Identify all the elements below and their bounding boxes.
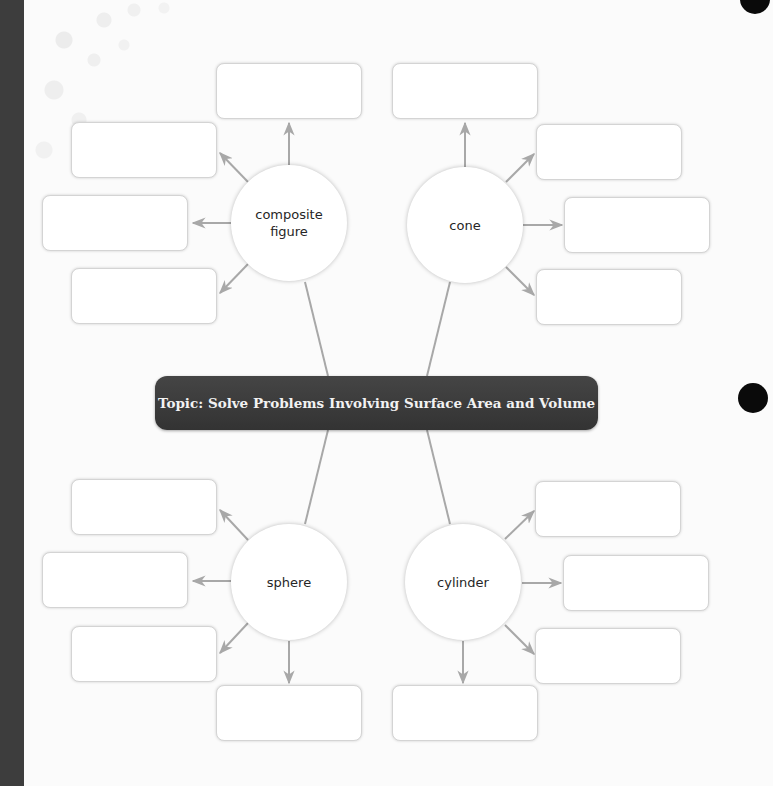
composite-answer-box-2[interactable]: [71, 122, 217, 178]
cylinder-answer-box-4[interactable]: [392, 685, 538, 741]
cone-answer-box-3[interactable]: [564, 197, 710, 253]
node-sphere: sphere: [231, 524, 347, 640]
cylinder-answer-box-1[interactable]: [535, 481, 681, 537]
sphere-answer-box-1[interactable]: [71, 479, 217, 535]
node-label: cone: [420, 217, 510, 234]
node-label: composite figure: [244, 206, 334, 240]
cone-answer-box-1[interactable]: [392, 63, 538, 119]
topic-banner: Topic: Solve Problems Involving Surface …: [155, 376, 598, 430]
composite-answer-box-4[interactable]: [71, 268, 217, 324]
cylinder-answer-box-2[interactable]: [563, 555, 709, 611]
node-cylinder: cylinder: [405, 524, 521, 640]
node-label: sphere: [244, 574, 334, 591]
cylinder-answer-box-3[interactable]: [535, 628, 681, 684]
composite-answer-box-3[interactable]: [42, 195, 188, 251]
node-composite-figure: composite figure: [231, 165, 347, 281]
cone-answer-box-2[interactable]: [536, 124, 682, 180]
sphere-answer-box-4[interactable]: [216, 685, 362, 741]
topic-title: Topic: Solve Problems Involving Surface …: [158, 395, 595, 411]
sphere-answer-box-2[interactable]: [42, 552, 188, 608]
cone-answer-box-4[interactable]: [536, 269, 682, 325]
node-cone: cone: [407, 167, 523, 283]
sphere-answer-box-3[interactable]: [71, 626, 217, 682]
composite-answer-box-1[interactable]: [216, 63, 362, 119]
node-label: cylinder: [418, 574, 508, 591]
